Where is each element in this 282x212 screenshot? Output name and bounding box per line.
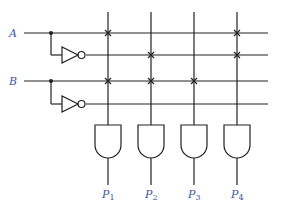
inverter-a-icon [62, 47, 78, 63]
and-gate-1-icon [95, 125, 121, 158]
output-label-p1: P1 [101, 188, 115, 202]
junction-dot-a [49, 31, 53, 35]
connection-crosses [105, 30, 240, 84]
junction-dot-b [49, 79, 53, 83]
output-label-p4: P4 [230, 188, 244, 202]
input-label-a: A [8, 27, 17, 40]
input-label-b: B [8, 75, 17, 88]
and-gate-4-icon [224, 125, 250, 158]
pla-diagram: A B P1 P2 P3 P4 [0, 0, 282, 212]
and-gate-2-icon [138, 125, 164, 158]
inverter-b-icon [62, 96, 78, 112]
output-label-p2: P2 [144, 188, 158, 202]
and-gate-3-icon [181, 125, 207, 158]
output-label-p3: P3 [187, 188, 201, 202]
